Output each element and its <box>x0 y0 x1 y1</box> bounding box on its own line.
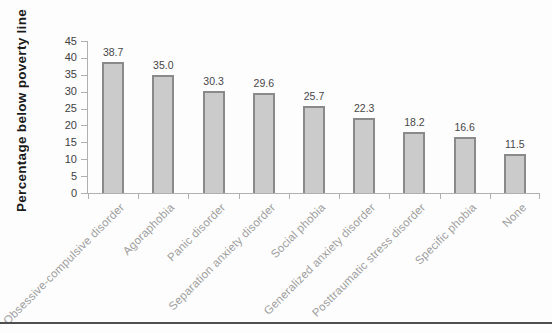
plot-area: 05101520253035404538.7Obsessive-compulsi… <box>88 41 540 193</box>
bar <box>102 62 124 193</box>
y-axis-tick <box>81 41 87 42</box>
x-axis-tick <box>188 194 189 199</box>
bar <box>303 106 325 193</box>
y-axis-tick <box>81 58 87 59</box>
bar <box>454 137 476 193</box>
y-axis-tick <box>81 159 87 160</box>
y-axis-tick <box>81 125 87 126</box>
bar-value-label: 11.5 <box>493 138 537 150</box>
y-tick-label: 0 <box>50 187 77 199</box>
y-tick-label: 20 <box>50 119 77 131</box>
y-tick-label: 35 <box>50 68 77 80</box>
bar <box>203 91 225 193</box>
bar-value-label: 29.6 <box>242 77 286 89</box>
y-axis-title: Percentage below poverty line <box>14 6 29 214</box>
y-axis-tick <box>81 193 87 194</box>
x-axis-line <box>87 193 540 194</box>
y-axis-tick <box>81 75 87 76</box>
y-tick-label: 10 <box>50 153 77 165</box>
bar-value-label: 35.0 <box>141 59 185 71</box>
y-axis-tick <box>81 142 87 143</box>
y-tick-label: 25 <box>50 102 77 114</box>
bar-value-label: 25.7 <box>292 90 336 102</box>
x-axis-tick <box>138 194 139 199</box>
bar-value-label: 16.6 <box>443 121 487 133</box>
y-axis-tick <box>81 176 87 177</box>
bar-value-label: 30.3 <box>192 75 236 87</box>
bottom-divider-rule <box>0 322 552 324</box>
x-category-label: Obsessive-compulsive disorder <box>1 201 127 327</box>
bar <box>504 154 526 193</box>
x-axis-tick <box>339 194 340 199</box>
y-axis-line <box>87 41 88 194</box>
bar <box>152 75 174 193</box>
bar <box>403 132 425 193</box>
bar-value-label: 38.7 <box>91 46 135 58</box>
x-axis-tick <box>289 194 290 199</box>
x-axis-tick <box>88 194 89 199</box>
x-axis-tick <box>440 194 441 199</box>
y-tick-label: 30 <box>50 85 77 97</box>
bar-value-label: 18.2 <box>392 116 436 128</box>
x-axis-tick <box>490 194 491 199</box>
y-tick-label: 40 <box>50 51 77 63</box>
x-category-label: Agoraphobia <box>121 201 177 257</box>
x-category-label: None <box>500 201 528 229</box>
y-axis-tick <box>81 92 87 93</box>
x-category-label: Posttraumatic stress disorder <box>310 201 428 319</box>
bar <box>253 93 275 193</box>
y-tick-label: 45 <box>50 35 77 47</box>
bar-chart-figure: Percentage below poverty line 0510152025… <box>0 0 552 333</box>
y-tick-label: 15 <box>50 136 77 148</box>
bar <box>353 118 375 193</box>
bar-value-label: 22.3 <box>342 102 386 114</box>
y-tick-label: 5 <box>50 170 77 182</box>
x-axis-tick <box>539 194 540 199</box>
x-axis-tick <box>239 194 240 199</box>
y-axis-tick <box>81 109 87 110</box>
x-category-label: Separation anxiety disorder <box>166 201 277 312</box>
x-axis-tick <box>389 194 390 199</box>
